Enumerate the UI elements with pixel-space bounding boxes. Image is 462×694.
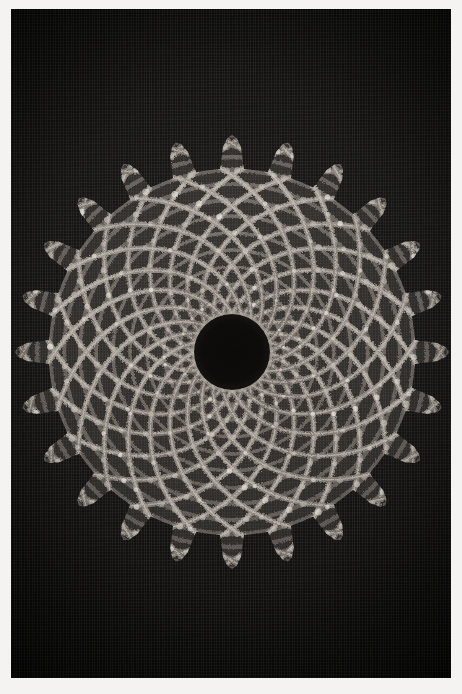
stitch-knot: [334, 263, 339, 268]
stitch-knot: [54, 297, 61, 304]
stitch-knot: [182, 222, 187, 227]
stitch-knot: [259, 411, 264, 416]
stitch-knot: [183, 561, 189, 567]
stitch-knot: [111, 505, 116, 510]
stitch-knot: [221, 143, 228, 150]
stitch-knot: [134, 504, 139, 509]
stitch-knot: [163, 338, 167, 342]
stitch-knot: [145, 352, 149, 356]
stitch-knot: [347, 531, 353, 537]
stitch-knot: [315, 432, 320, 437]
stitch-knot: [191, 444, 196, 449]
stitch-knot: [277, 477, 282, 482]
stitch-knot: [316, 244, 322, 250]
stitch-knot: [207, 484, 212, 489]
stitch-knot: [312, 326, 316, 330]
stitch-knot: [47, 467, 53, 473]
stitch-knot: [49, 423, 55, 429]
stitch-knot: [184, 148, 190, 154]
stitch-knot: [126, 461, 131, 466]
stitch-knot: [332, 288, 336, 292]
stitch-knot: [328, 542, 335, 549]
stitch-knot: [119, 428, 124, 433]
stitch-knot: [300, 484, 305, 489]
stitch-knot: [121, 478, 126, 483]
stitch-knot: [77, 356, 82, 361]
stitch-knot: [368, 197, 375, 204]
stitch-knot: [282, 355, 286, 359]
stitch-knot: [375, 510, 381, 516]
stitch-knot: [254, 432, 258, 436]
stitch-knot: [358, 268, 362, 272]
stitch-knot: [274, 402, 278, 406]
stitch-knot: [353, 293, 358, 298]
stitch-knot: [203, 156, 208, 161]
stitch-knot: [192, 406, 196, 410]
stitch-knot: [274, 561, 281, 568]
stitch-knot: [219, 133, 224, 138]
stitch-knot: [305, 391, 309, 395]
stitch-knot: [298, 355, 302, 359]
stitch-knot: [271, 526, 276, 531]
stitch-knot: [281, 524, 286, 529]
stitch-knot: [200, 184, 205, 189]
stitch-knot: [313, 330, 317, 334]
stitch-knot: [334, 436, 340, 442]
stitch-knot: [96, 327, 101, 332]
stitch-knot: [74, 231, 79, 236]
stitch-knot: [325, 505, 330, 510]
stitch-knot: [77, 209, 84, 216]
stitch-knot: [201, 234, 206, 239]
stitch-knot: [200, 308, 204, 312]
stitch-knot: [252, 414, 256, 418]
stitch-knot: [271, 425, 274, 428]
stitch-knot: [256, 543, 261, 548]
stitch-knot: [278, 329, 281, 332]
stitch-knot: [204, 155, 210, 161]
stitch-knot: [147, 330, 152, 335]
stitch-knot: [383, 468, 389, 474]
stitch-knot: [260, 393, 264, 397]
stitch-knot: [395, 378, 401, 384]
stitch-knot: [411, 354, 417, 360]
stitch-knot: [227, 231, 232, 236]
stitch-knot: [168, 546, 173, 551]
stitch-knot: [315, 267, 320, 272]
doily-lattice-svg: [11, 9, 451, 678]
stitch-knot: [35, 374, 41, 380]
stitch-knot: [303, 169, 309, 175]
stitch-knot: [95, 279, 100, 284]
stitch-knot: [435, 415, 442, 422]
stitch-knot: [191, 255, 196, 260]
stitch-knot: [242, 214, 247, 219]
stitch-knot: [300, 501, 306, 507]
stitch-knot: [228, 435, 232, 439]
stitch-knot: [291, 379, 295, 383]
stitch-knot: [200, 515, 206, 521]
stitch-knot: [129, 337, 133, 341]
stitch-knot: [272, 172, 277, 177]
stitch-knot: [308, 461, 313, 466]
stitch-knot: [364, 420, 369, 425]
stitch-knot: [110, 195, 116, 201]
stitch-knot: [128, 288, 133, 293]
stitch-knot: [178, 394, 182, 398]
stitch-knot: [348, 352, 353, 357]
center-hole: [194, 314, 270, 390]
stitch-knot: [385, 254, 390, 259]
stitch-knot: [315, 509, 322, 516]
stitch-knot: [281, 174, 288, 181]
stitch-knot: [12, 338, 18, 344]
stitch-knot: [275, 148, 281, 154]
stitch-knot: [258, 465, 263, 470]
stitch-knot: [173, 226, 178, 231]
stitch-knot: [47, 445, 52, 450]
stitch-knot: [223, 197, 228, 202]
stitch-knot: [273, 320, 277, 324]
stitch-knot: [324, 389, 328, 393]
stitch-knot: [383, 230, 389, 236]
stitch-knot: [422, 448, 428, 454]
stitch-knot: [95, 420, 100, 425]
stitch-knot: [36, 324, 42, 330]
stitch-knot: [85, 395, 90, 400]
